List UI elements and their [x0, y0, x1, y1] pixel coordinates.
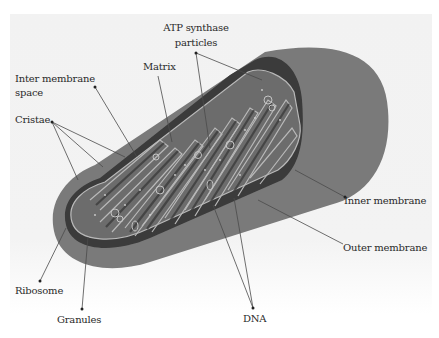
label-atp-synthase: ATP synthase particles [156, 22, 236, 49]
label-atp-line1: ATP synthase [156, 22, 236, 34]
mitochondrion-diagram [0, 0, 439, 338]
label-dna: DNA [243, 313, 266, 325]
label-cristae: Cristae [15, 114, 50, 126]
label-atp-line2: particles [156, 37, 236, 49]
label-matrix: Matrix [143, 61, 176, 73]
label-inner-membrane: Inner membrane [344, 195, 426, 207]
label-inter-membrane-line1: Inter membrane [15, 73, 95, 85]
label-granules: Granules [57, 314, 101, 326]
label-ribosome: Ribosome [15, 285, 63, 297]
label-outer-membrane: Outer membrane [343, 242, 427, 254]
label-inter-membrane-line2: space [15, 87, 95, 99]
label-inter-membrane-space: Inter membrane space [15, 73, 95, 99]
